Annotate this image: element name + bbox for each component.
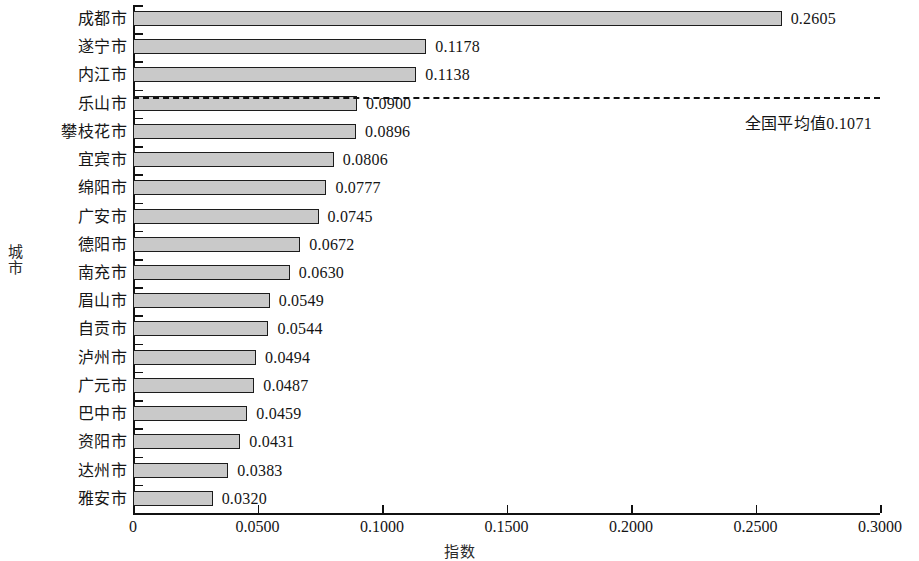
bar-row: 0.0459 (133, 400, 880, 428)
bar-row: 0.0383 (133, 457, 880, 485)
bar (133, 265, 290, 280)
category-label: 绵阳市 (78, 174, 128, 202)
bar (133, 406, 247, 421)
category-label: 德阳市 (78, 231, 128, 259)
bar-value-label: 0.0320 (222, 485, 267, 513)
bar-row: 0.0745 (133, 203, 880, 231)
x-axis-line (133, 513, 880, 515)
x-axis-tick-label: 0 (129, 518, 137, 536)
category-label: 眉山市 (78, 287, 128, 315)
bar (133, 152, 334, 167)
bar (133, 293, 270, 308)
bar-value-label: 0.0487 (263, 372, 308, 400)
category-label: 南充市 (78, 259, 128, 287)
bar (133, 237, 300, 252)
plot-area: 0.26050.11780.11380.09000.08960.08060.07… (133, 5, 880, 513)
category-label: 内江市 (78, 61, 128, 89)
x-axis-title: 指数 (0, 540, 919, 561)
y-axis-tick-labels: 成都市遂宁市内江市乐山市攀枝花市宜宾市绵阳市广安市德阳市南充市眉山市自贡市泸州市… (26, 5, 130, 513)
bar-row: 0.0549 (133, 287, 880, 315)
x-axis-tick-label: 0.2500 (734, 518, 778, 536)
bar (133, 209, 319, 224)
bar-value-label: 0.0777 (335, 174, 380, 202)
bar-row: 0.1178 (133, 33, 880, 61)
bar-value-label: 0.0459 (256, 400, 301, 428)
bar-value-label: 0.0431 (249, 428, 294, 456)
bar-value-label: 0.0806 (343, 146, 388, 174)
bar-value-label: 0.0494 (265, 344, 310, 372)
bar (133, 491, 213, 506)
y-axis-tick (135, 513, 143, 515)
bar (133, 378, 254, 393)
category-label: 广安市 (78, 203, 128, 231)
bar (133, 11, 782, 26)
bar-row: 0.0672 (133, 231, 880, 259)
bar-value-label: 0.0745 (328, 203, 373, 231)
bar-value-label: 0.0900 (366, 90, 411, 118)
bar (133, 321, 268, 336)
bar-row: 0.0431 (133, 428, 880, 456)
category-label: 乐山市 (78, 90, 128, 118)
bar-value-label: 0.1138 (425, 61, 470, 89)
bar-row: 0.0806 (133, 146, 880, 174)
bar-row: 0.2605 (133, 5, 880, 33)
bar-value-label: 0.0630 (299, 259, 344, 287)
bar-row: 0.0487 (133, 372, 880, 400)
category-label: 攀枝花市 (61, 118, 127, 146)
x-axis-tick-label: 0.1000 (360, 518, 404, 536)
category-label: 宜宾市 (78, 146, 128, 174)
bar-value-label: 0.2605 (791, 5, 836, 33)
category-label: 达州市 (78, 457, 128, 485)
bar-value-label: 0.0672 (309, 231, 354, 259)
x-axis-tick (880, 505, 882, 513)
bar (133, 434, 240, 449)
category-label: 雅安市 (78, 485, 128, 513)
bar-value-label: 0.0544 (277, 315, 322, 343)
category-label: 泸州市 (78, 344, 128, 372)
x-axis-tick-label: 0.1500 (485, 518, 529, 536)
category-label: 资阳市 (78, 428, 128, 456)
bar-value-label: 0.1178 (435, 33, 480, 61)
x-axis-tick-label: 0.3000 (858, 518, 902, 536)
bar (133, 39, 426, 54)
bar (133, 180, 326, 195)
category-label: 自贡市 (78, 315, 128, 343)
category-label: 遂宁市 (78, 33, 128, 61)
bar-row: 0.1138 (133, 61, 880, 89)
bar-chart-figure: 城市 成都市遂宁市内江市乐山市攀枝花市宜宾市绵阳市广安市德阳市南充市眉山市自贡市… (0, 0, 919, 561)
bar-row: 0.0630 (133, 259, 880, 287)
category-label: 巴中市 (78, 400, 128, 428)
x-axis-tick-label: 0.2000 (609, 518, 653, 536)
bar-value-label: 0.0549 (279, 287, 324, 315)
bar-row: 0.0320 (133, 485, 880, 513)
x-axis-tick-label: 0.0500 (236, 518, 280, 536)
bar-row: 0.0777 (133, 174, 880, 202)
bar-value-label: 0.0383 (237, 457, 282, 485)
category-label: 成都市 (78, 5, 128, 33)
bar (133, 124, 356, 139)
bar (133, 350, 256, 365)
bar-value-label: 0.0896 (365, 118, 410, 146)
bar-row: 0.0494 (133, 344, 880, 372)
bar-row: 0.0544 (133, 315, 880, 343)
bar (133, 463, 228, 478)
category-label: 广元市 (78, 372, 128, 400)
national-average-label: 全国平均值0.1071 (745, 110, 872, 134)
bar (133, 67, 416, 82)
national-average-line (133, 97, 880, 99)
